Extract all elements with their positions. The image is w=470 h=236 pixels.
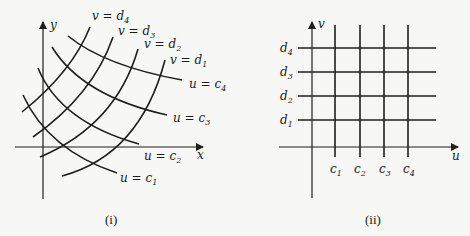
figure-canvas: y x v = d4 v = d3 v = d2 v = d1 u = c4 u… (0, 0, 470, 236)
tick-c1: c1 (330, 162, 342, 178)
label-u-c4: u = c4 (189, 77, 226, 93)
caption-i: (i) (105, 212, 117, 227)
label-v-d1: v = d1 (170, 53, 207, 69)
curve-v-d4 (22, 27, 90, 112)
curve-v-d3 (33, 37, 113, 137)
label-u-c1: u = c1 (120, 171, 157, 187)
tick-d1: d1 (280, 113, 293, 129)
tick-d2: d2 (280, 89, 293, 105)
x-axis-label: x (197, 148, 204, 162)
tick-c2: c2 (354, 162, 366, 178)
caption-ii: (ii) (365, 212, 381, 227)
label-u-c3: u = c3 (173, 111, 210, 127)
y-axis-label: y (49, 18, 57, 32)
panel-ii: v u d4 d3 d2 d1 c1 c2 c3 c4 (ii) (279, 17, 460, 227)
curve-u-c2 (38, 68, 139, 144)
label-v-d4: v = d4 (92, 9, 129, 25)
tick-c4: c4 (403, 162, 415, 178)
label-v-d2: v = d2 (144, 37, 181, 53)
v-axis-label: v (318, 17, 325, 31)
label-u-c2: u = c2 (144, 149, 181, 165)
u-axis-label: u (452, 149, 460, 163)
tick-d4: d4 (280, 41, 293, 57)
tick-d3: d3 (280, 65, 293, 81)
tick-c3: c3 (379, 162, 391, 178)
panel-i: y x v = d4 v = d3 v = d2 v = d1 u = c4 u… (15, 9, 226, 227)
